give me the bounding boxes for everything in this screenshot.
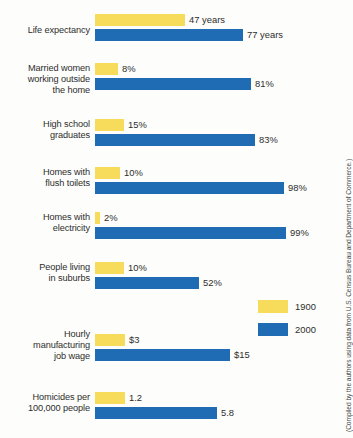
row-category-label-line: Hourly	[0, 329, 90, 340]
bar-1900: 10%	[95, 262, 222, 274]
bar-fill	[95, 392, 125, 404]
legend-label: 2000	[288, 323, 316, 336]
bar-value-label: 81%	[251, 78, 274, 90]
bar-fill	[95, 78, 251, 90]
row-category-label-line: Homes with	[0, 167, 90, 178]
row-bars: 2%99%	[95, 212, 309, 239]
bar-value-label: 52%	[199, 277, 222, 289]
row-category-label-line: Life expectancy	[0, 25, 90, 36]
row-category-label: Married womenworking outsidethe home	[0, 63, 90, 97]
bar-fill	[95, 167, 120, 179]
bar-value-label: 15%	[124, 119, 147, 131]
bar-1900: 1.2	[95, 392, 234, 404]
bar-fill	[95, 262, 124, 274]
row-category-label: Hourlymanufacturingjob wage	[0, 329, 90, 363]
bar-value-label: 1.2	[125, 392, 142, 404]
row-bars: $3$15	[95, 334, 250, 361]
bar-value-label: 2%	[100, 212, 118, 224]
bar-value-label: 10%	[120, 167, 143, 179]
bar-value-label: 10%	[124, 262, 147, 274]
legend-swatch	[258, 300, 288, 313]
bar-fill	[95, 277, 199, 289]
row-category-label-line: High school	[0, 119, 90, 130]
bar-fill	[95, 227, 286, 239]
bar-value-label: 77 years	[243, 29, 283, 41]
row-bars: 15%83%	[95, 119, 278, 146]
bar-fill	[95, 349, 230, 361]
bar-1900: 10%	[95, 167, 307, 179]
bar-fill	[95, 29, 243, 41]
bar-2000: 81%	[95, 78, 274, 90]
bar-1900: 15%	[95, 119, 278, 131]
row-category-label-line: Homicides per	[0, 392, 90, 403]
legend-item: 2000	[258, 320, 330, 333]
bar-2000: $15	[95, 349, 250, 361]
bar-1900: 2%	[95, 212, 309, 224]
bar-fill	[95, 63, 118, 75]
bar-value-label: 47 years	[185, 14, 225, 26]
row-bars: 47 years77 years	[95, 14, 283, 41]
bar-fill	[95, 407, 217, 419]
bar-1900: $3	[95, 334, 250, 346]
bar-fill	[95, 119, 124, 131]
row-category-label-line: the home	[0, 85, 90, 96]
bar-2000: 5.8	[95, 407, 234, 419]
row-category-label: Homes withflush toilets	[0, 167, 90, 189]
legend-item: 1900	[258, 297, 330, 310]
chart-source-note: (Compiled by the authors using data from…	[334, 0, 348, 438]
row-bars: 10%98%	[95, 167, 307, 194]
row-category-label-line: flush toilets	[0, 178, 90, 189]
bar-2000: 77 years	[95, 29, 283, 41]
row-category-label-line: Married women	[0, 63, 90, 74]
bar-value-label: 83%	[255, 134, 278, 146]
bar-value-label: 5.8	[217, 407, 234, 419]
row-category-label-line: manufacturing	[0, 340, 90, 351]
chart-legend: 19002000	[258, 297, 330, 343]
bar-1900: 8%	[95, 63, 274, 75]
row-bars: 8%81%	[95, 63, 274, 90]
bar-value-label: 8%	[118, 63, 136, 75]
bar-value-label: $3	[125, 334, 139, 346]
bar-2000: 83%	[95, 134, 278, 146]
row-category-label: People livingin suburbs	[0, 262, 90, 284]
bar-2000: 99%	[95, 227, 309, 239]
legend-label: 1900	[288, 300, 316, 313]
bar-fill	[95, 334, 125, 346]
bar-value-label: $15	[230, 349, 250, 361]
row-category-label-line: job wage	[0, 351, 90, 362]
bar-1900: 47 years	[95, 14, 283, 26]
legend-swatch	[258, 323, 288, 336]
bar-value-label: 99%	[286, 227, 309, 239]
bar-2000: 98%	[95, 182, 307, 194]
row-category-label: Homes withelectricity	[0, 212, 90, 234]
row-category-label-line: People living	[0, 262, 90, 273]
source-note-text: (Compiled by the authors using data from…	[345, 159, 353, 432]
bar-2000: 52%	[95, 277, 222, 289]
bar-value-label: 98%	[284, 182, 307, 194]
bar-fill	[95, 14, 185, 26]
row-category-label-line: in suburbs	[0, 273, 90, 284]
row-category-label-line: 100,000 people	[0, 403, 90, 414]
row-category-label-line: Homes with	[0, 212, 90, 223]
row-category-label: Life expectancy	[0, 25, 90, 36]
row-category-label-line: graduates	[0, 130, 90, 141]
row-category-label: Homicides per100,000 people	[0, 392, 90, 414]
row-category-label-line: electricity	[0, 223, 90, 234]
row-bars: 1.25.8	[95, 392, 234, 419]
row-bars: 10%52%	[95, 262, 222, 289]
row-category-label: High schoolgraduates	[0, 119, 90, 141]
row-category-label-line: working outside	[0, 74, 90, 85]
bar-fill	[95, 134, 255, 146]
bar-fill	[95, 182, 284, 194]
